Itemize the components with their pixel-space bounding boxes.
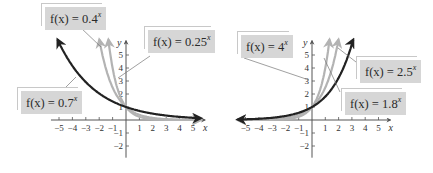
- x-tick-label: −5: [241, 123, 251, 133]
- y-tick-label: 5: [305, 50, 310, 60]
- label-f-2.5: f(x) = 2.5x: [360, 60, 421, 83]
- x-tick-label: −4: [254, 123, 264, 133]
- x-tick-label: −3: [81, 123, 91, 133]
- x-tick-label: −3: [267, 123, 277, 133]
- x-tick-label: 4: [177, 123, 182, 133]
- label-text: f(x) = 4: [246, 40, 284, 54]
- x-tick-label: 2: [336, 123, 341, 133]
- x-tick-label: 4: [363, 123, 368, 133]
- label-exponent: x: [413, 63, 417, 72]
- x-axis-label: x: [387, 122, 393, 133]
- leader-0.7: [65, 77, 76, 88]
- y-tick-label: −2: [113, 141, 123, 151]
- y-tick-label: 4: [119, 63, 124, 73]
- y-tick-label: −1: [299, 128, 309, 138]
- y-axis-label: y: [302, 37, 308, 48]
- x-tick-label: −5: [54, 123, 64, 133]
- x-tick-label: −2: [94, 123, 104, 133]
- y-axis-label: y: [116, 37, 122, 48]
- label-exponent: x: [98, 10, 102, 19]
- x-tick-label: 1: [323, 123, 328, 133]
- label-f-0.7: f(x) = 0.7x: [21, 91, 82, 114]
- x-tick-label: −2: [281, 123, 291, 133]
- label-text: f(x) = 0.7: [26, 96, 74, 110]
- x-tick-label: 5: [191, 123, 196, 133]
- leader-4: [244, 58, 309, 80]
- y-tick-label: −1: [113, 128, 123, 138]
- x-tick-label: 3: [350, 123, 355, 133]
- x-tick-label: 5: [376, 123, 381, 133]
- x-tick-label: 2: [151, 123, 156, 133]
- label-exponent: x: [207, 33, 211, 42]
- label-f-4: f(x) = 4x: [241, 35, 293, 58]
- label-exponent: x: [74, 94, 78, 103]
- label-text: f(x) = 2.5: [365, 65, 413, 79]
- label-f-0.25: f(x) = 0.25x: [148, 30, 215, 53]
- leader-0.4: [80, 27, 101, 47]
- y-tick-label: 5: [119, 50, 124, 60]
- label-exponent: x: [284, 38, 288, 47]
- x-tick-label: −4: [68, 123, 78, 133]
- y-tick-label: −2: [299, 141, 309, 151]
- label-text: f(x) = 0.4: [50, 12, 98, 26]
- label-f-0.4: f(x) = 0.4x: [45, 7, 106, 30]
- x-tick-label: 1: [137, 123, 142, 133]
- label-text: f(x) = 1.8: [350, 97, 398, 111]
- y-tick-label: 4: [305, 63, 310, 73]
- y-tick-label: 3: [305, 76, 310, 86]
- y-tick-label: 2: [305, 89, 310, 99]
- x-tick-label: 3: [164, 123, 169, 133]
- label-exponent: x: [398, 95, 402, 104]
- label-text: f(x) = 0.25: [153, 35, 207, 49]
- label-f-1.8: f(x) = 1.8x: [345, 92, 406, 115]
- x-axis-label: x: [202, 122, 208, 133]
